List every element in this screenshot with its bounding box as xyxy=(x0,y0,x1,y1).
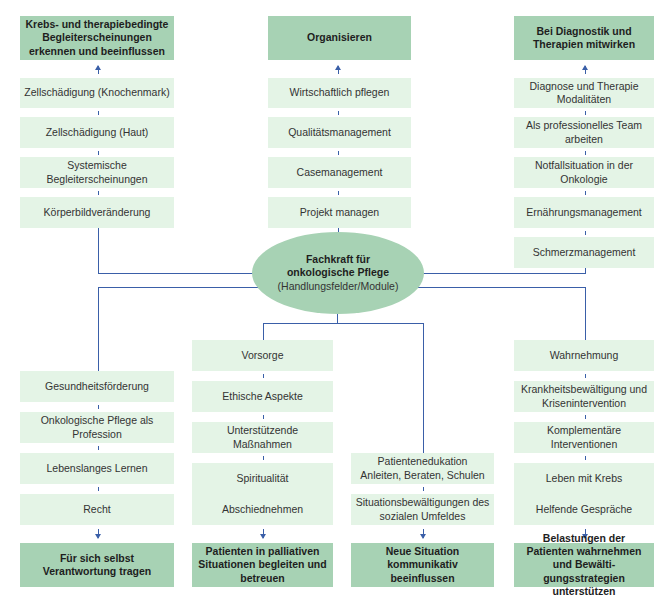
arrow-down-icon xyxy=(263,529,264,538)
center-title: Fachkraft für onkologische Pflege xyxy=(273,253,403,279)
connector-tick xyxy=(585,456,586,460)
list-item: Situationsbewältigungen des sozialen Umf… xyxy=(351,494,494,525)
center-node: Fachkraft für onkologische Pflege (Handl… xyxy=(252,232,424,314)
connector-line xyxy=(98,273,258,274)
arrow-up-icon xyxy=(338,66,339,74)
top-header-diagnostics: Bei Diagnostik und Therapien mitwirken xyxy=(514,16,654,60)
connector-line xyxy=(418,287,585,288)
list-item: Leben mit Krebs xyxy=(514,463,654,494)
connector-tick xyxy=(585,374,586,378)
connector-tick xyxy=(585,151,586,155)
list-item: Recht xyxy=(20,494,174,525)
list-item: Vorsorge xyxy=(192,340,333,371)
list-item: Wirtschaftlich pflegen xyxy=(268,78,411,108)
connector-tick xyxy=(585,415,586,419)
list-item: Qualitätsmanagement xyxy=(268,117,411,148)
connector-line xyxy=(585,287,586,340)
list-item: Spiritualität xyxy=(192,463,333,494)
connector-tick xyxy=(98,405,99,409)
connector-tick xyxy=(338,191,339,195)
connector-tick xyxy=(585,231,586,235)
arrow-up-icon xyxy=(585,66,586,74)
list-item: Ethische Aspekte xyxy=(192,381,333,412)
list-item: Ernährungsmanagement xyxy=(514,197,654,228)
list-item: Unterstützende Maßnahmen xyxy=(192,422,333,453)
list-item: Projekt managen xyxy=(268,197,411,228)
connector-line xyxy=(98,228,99,273)
top-header-organize: Organisieren xyxy=(268,16,411,60)
list-item: Als professionelles Team arbeiten xyxy=(514,117,654,148)
connector-line xyxy=(263,323,264,340)
connector-tick xyxy=(423,487,424,491)
list-item: Diagnose und Therapie Modalitäten xyxy=(514,78,654,108)
connector-tick xyxy=(338,151,339,155)
connector-line xyxy=(263,323,424,324)
bottom-header-self-responsibility: Für sich selbst Verantwortung tragen xyxy=(20,543,174,587)
list-item: Abschiednehmen xyxy=(192,494,333,525)
connector-line xyxy=(98,287,258,288)
connector-tick xyxy=(338,111,339,115)
list-item: Körperbildveränderung xyxy=(20,197,174,228)
list-item: Systemische Begleiterscheinungen xyxy=(20,157,174,188)
connector-tick xyxy=(585,191,586,195)
connector-tick xyxy=(263,374,264,378)
list-item: Notfallsituation in der Onkologie xyxy=(514,157,654,188)
list-item: Onkologische Pflege als Profession xyxy=(20,412,174,443)
list-item: Zellschädigung (Knochenmark) xyxy=(20,78,174,108)
connector-tick xyxy=(98,446,99,450)
list-item: Zellschädigung (Haut) xyxy=(20,117,174,148)
connector-tick xyxy=(98,191,99,195)
list-item: Krankheitsbewältigung und Kriseninterven… xyxy=(514,381,654,412)
list-item: Patientenedukation Anleiten, Beraten, Sc… xyxy=(351,453,494,484)
list-item: Schmerzmanagement xyxy=(514,237,654,268)
connector-line xyxy=(98,287,99,371)
list-item: Helfende Gespräche xyxy=(514,494,654,525)
list-item: Wahrnehmung xyxy=(514,340,654,371)
connector-tick xyxy=(98,151,99,155)
list-item: Lebenslanges Lernen xyxy=(20,453,174,484)
arrow-down-icon xyxy=(423,529,424,538)
bottom-header-coping: Belastungen der Patienten wahrnehmen und… xyxy=(514,543,654,587)
connector-line xyxy=(418,273,585,274)
bottom-header-communication: Neue Situation kommunikativ beeinflussen xyxy=(351,543,494,587)
top-header-side-effects: Krebs- und therapiebedingte Begleitersch… xyxy=(20,16,174,60)
list-item: Gesundheitsförderung xyxy=(20,371,174,402)
list-item: Komplementäre Interventionen xyxy=(514,422,654,453)
connector-tick xyxy=(585,111,586,115)
center-subtitle: (Handlungsfelder/Module) xyxy=(278,280,399,293)
arrow-up-icon xyxy=(98,66,99,74)
connector-tick xyxy=(98,111,99,115)
connector-line xyxy=(585,268,586,274)
bottom-header-palliative: Patienten in palliativen Situationen beg… xyxy=(192,543,333,587)
connector-tick xyxy=(98,487,99,491)
connector-line xyxy=(423,323,424,453)
list-item: Casemanagement xyxy=(268,157,411,188)
connector-tick xyxy=(263,415,264,419)
arrow-down-icon xyxy=(98,529,99,538)
connector-tick xyxy=(263,456,264,460)
